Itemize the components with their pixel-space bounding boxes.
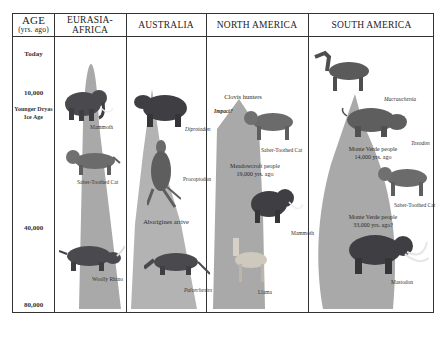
diprotodon-illustration [133,92,191,128]
event-impact: Impact? [214,107,233,115]
mammoth-illustration [61,86,113,122]
column-header-north-america: NORTH AMERICA [206,14,308,36]
column-header-australia: AUSTRALIA [126,14,206,36]
axis-tick-10000: 10,000 [13,89,54,97]
label-mammoth-eurasia: Mammoth [90,124,113,130]
saber-toothed-cat-illustration [241,108,301,142]
event-meadowcroft-people: Meadowcroft people [225,162,285,170]
axis-tick-today: Today [13,50,54,58]
extinction-chart-frame: AGE (yrs. ago) EURASIA-AFRICA AUSTRALIA … [12,13,434,313]
column-header-south-america: SOUTH AMERICA [308,14,435,36]
palorchestes-illustration [144,250,210,280]
event-aborigines-arrive: Aborigines arrive [131,218,201,226]
event-meadowcroft-date: 19,000 yrs. ago [225,170,285,178]
saber-toothed-cat-illustration [375,164,433,198]
axis-tick-80000: 80,000 [13,301,54,309]
label-macrauchenia: Macrauchenia [384,96,416,102]
procoptodon-illustration [147,139,181,211]
label-saber-toothed-cat-eurasia: Saber-Toothed Cat [77,179,118,185]
mastodon-illustration [345,232,429,276]
label-llama: Llama [258,289,272,295]
label-saber-toothed-cat-south-america: Saber-Toothed Cat [394,202,435,208]
macrauchenia-illustration [313,49,375,93]
event-monte-verde-date-2: 33,000 yrs. ago? [338,221,408,229]
axis-tick-younger-dryas: Younger Dryas Ice Age [13,105,54,121]
age-subtitle: (yrs. ago) [18,25,49,34]
label-diprotodon: Diprotodon [185,126,210,132]
label-mammoth-north-america: Mammoth [291,230,314,236]
llama-illustration [227,236,275,284]
label-procoptodon: Procoptodon [183,176,211,182]
mammoth-illustration [247,184,303,224]
woolly-rhino-illustration [59,242,125,272]
event-clovis-hunters: Clovis hunters [213,93,273,101]
saber-toothed-cat-illustration [63,147,121,177]
label-toxodon: Toxodon [411,140,430,146]
column-header-eurasia-africa: EURASIA-AFRICA [54,14,126,36]
label-palorchestes: Palorchestes [184,287,212,293]
label-mastodon: Mastodon [391,279,413,285]
label-woolly-rhino: Woolly Rhino [92,276,123,282]
age-header: AGE (yrs. ago) [13,14,54,36]
event-monte-verde-date-1: 14,000 yrs. ago [338,153,408,161]
age-title: AGE [22,16,45,25]
event-monte-verde-people-2: Monte Verde people [338,213,408,221]
label-saber-toothed-cat-north-america: Saber-Toothed Cat [261,147,302,153]
toxodon-illustration [341,104,409,138]
axis-tick-40000: 40,000 [13,224,54,232]
event-monte-verde-people-1: Monte Verde people [338,145,408,153]
